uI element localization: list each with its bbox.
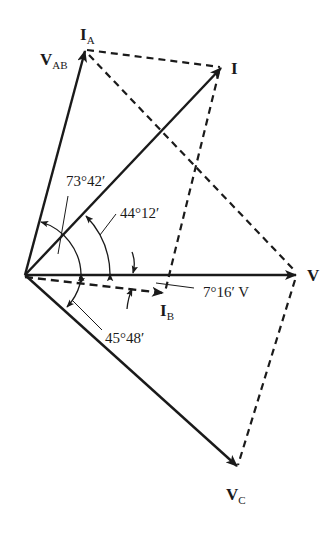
phasor-diagram: IA VAB I V IB VC 73°42′ 44°12′ 7°16′ V 4…: [0, 0, 330, 536]
dashed-ia-to-v: [89, 55, 296, 272]
phasor-vab: [25, 51, 85, 275]
angle-label-44-12: 44°12′: [120, 205, 159, 221]
dashed-v-to-vc: [238, 280, 295, 465]
phasors: [25, 51, 296, 466]
leader-44-12: [100, 214, 116, 235]
leader-45-48: [72, 300, 102, 330]
angle-label-7-16: 7°16′ V: [203, 284, 249, 300]
dashed-ia-to-i: [87, 50, 220, 67]
leader-7-16: [156, 283, 194, 288]
arc-7-16-top: [132, 252, 134, 273]
leader-73-42: [58, 196, 68, 254]
label-i: I: [231, 59, 238, 78]
arc-45-48: [67, 284, 80, 307]
label-ib: IB: [160, 301, 174, 322]
label-vc: VC: [226, 485, 246, 506]
label-ia: IA: [80, 25, 95, 46]
phasor-i: [25, 68, 221, 275]
phasor-ib: [25, 277, 163, 293]
dashed-i-to-ib: [165, 72, 219, 292]
arc-73-42: [41, 222, 81, 274]
angle-arcs: [41, 216, 134, 309]
arc-7-16-bottom: [127, 289, 132, 309]
arc-44-12: [86, 216, 110, 274]
label-vab: VAB: [40, 50, 68, 71]
construction-lines: [87, 50, 296, 465]
angle-label-73-42: 73°42′: [66, 173, 105, 189]
angle-label-45-48: 45°48′: [105, 330, 144, 346]
label-v: V: [307, 266, 320, 285]
phasor-vc: [25, 275, 237, 466]
